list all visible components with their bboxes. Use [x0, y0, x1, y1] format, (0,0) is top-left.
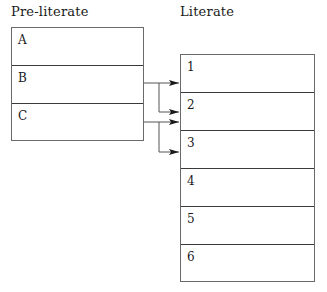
arrow-c-to-3 [159, 122, 179, 152]
arrow-b-to-2 [159, 83, 179, 112]
connector-arrows [0, 0, 327, 292]
